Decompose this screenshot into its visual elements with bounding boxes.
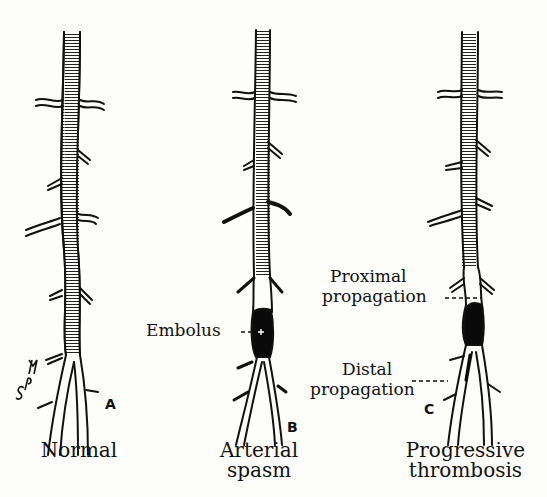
panel-letter-b: B	[287, 420, 298, 434]
caption-arterial: Arterial	[204, 440, 314, 460]
artery-spasm	[224, 30, 296, 445]
caption-spasm: spasm	[204, 460, 314, 480]
panel-letter-c: C	[424, 402, 434, 416]
label-proximal-2: propagation	[322, 288, 427, 305]
caption-normal: Normal	[24, 440, 134, 460]
artery-thrombosis	[428, 32, 502, 445]
label-distal-2: propagation	[310, 381, 415, 398]
artery-normal	[26, 32, 104, 455]
caption-thrombosis: thrombosis	[398, 460, 533, 480]
label-distal-1: Distal	[342, 361, 392, 378]
artery-illustration	[0, 0, 547, 497]
label-embolus: Embolus	[146, 322, 221, 339]
panel-letter-a: A	[105, 397, 116, 411]
caption-progressive: Progressive	[398, 440, 533, 460]
label-proximal-1: Proximal	[330, 268, 407, 285]
artist-signature	[16, 360, 37, 399]
